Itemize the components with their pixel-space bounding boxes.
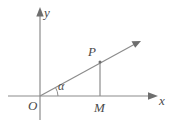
geometry-figure: y x O P M α [0, 0, 172, 126]
origin-label: O [28, 99, 37, 112]
x-axis-label: x [159, 94, 165, 107]
geometry-canvas [0, 0, 172, 126]
angle-alpha-label: α [58, 80, 64, 92]
ray-arrowhead [132, 41, 142, 48]
y-axis-label: y [44, 6, 50, 19]
x-axis-arrowhead [148, 92, 158, 100]
point-p-label: P [88, 45, 96, 58]
point-p-marker [99, 61, 102, 64]
point-m-label: M [94, 101, 105, 114]
y-axis-arrowhead [36, 7, 43, 17]
